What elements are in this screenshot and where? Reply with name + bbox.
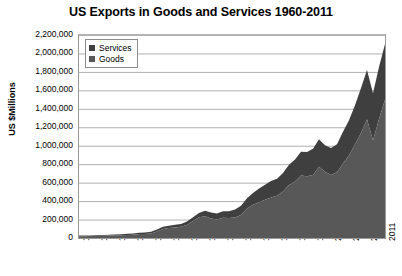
legend-label: Goods	[99, 54, 124, 64]
chart-legend: ServicesGoods	[85, 39, 138, 68]
x-tick-label: 2011	[388, 223, 397, 241]
chart-container: US Exports in Goods and Services 1960-20…	[0, 0, 402, 276]
legend-item[interactable]: Goods	[89, 53, 132, 64]
legend-swatch-icon	[89, 45, 95, 51]
legend-swatch-icon	[89, 56, 95, 62]
legend-item[interactable]: Services	[89, 42, 132, 53]
legend-label: Services	[99, 43, 132, 53]
